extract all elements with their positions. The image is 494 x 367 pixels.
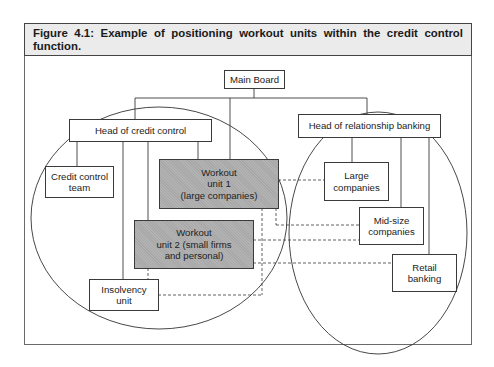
large-companies-label: Large companies <box>333 170 379 193</box>
large-companies-box: Large companies <box>324 162 389 201</box>
head-credit-control-label: Head of credit control <box>95 125 186 137</box>
workout-unit-1-label: Workout unit 1 (large companies) <box>181 167 258 202</box>
workout-unit-2-box: Workout unit 2 (small firms and personal… <box>134 220 254 269</box>
workout-unit-1-box: Workout unit 1 (large companies) <box>159 159 279 209</box>
insolvency-unit-box: Insolvency unit <box>89 279 159 311</box>
retail-banking-box: Retail banking <box>392 254 457 292</box>
mid-size-companies-box: Mid-size companies <box>359 207 424 245</box>
main-board-label: Main Board <box>230 74 279 86</box>
head-relationship-banking-label: Head of relationship banking <box>309 120 431 132</box>
credit-control-team-box: Credit control team <box>45 166 114 198</box>
main-board-box: Main Board <box>224 70 285 89</box>
mid-size-companies-label: Mid-size companies <box>368 215 414 238</box>
head-credit-control-box: Head of credit control <box>69 119 212 142</box>
credit-control-team-label: Credit control team <box>51 171 108 194</box>
head-relationship-banking-box: Head of relationship banking <box>298 114 441 138</box>
retail-banking-label: Retail banking <box>408 262 442 285</box>
insolvency-unit-label: Insolvency unit <box>101 284 146 307</box>
workout-unit-2-label: Workout unit 2 (small firms and personal… <box>156 227 231 262</box>
